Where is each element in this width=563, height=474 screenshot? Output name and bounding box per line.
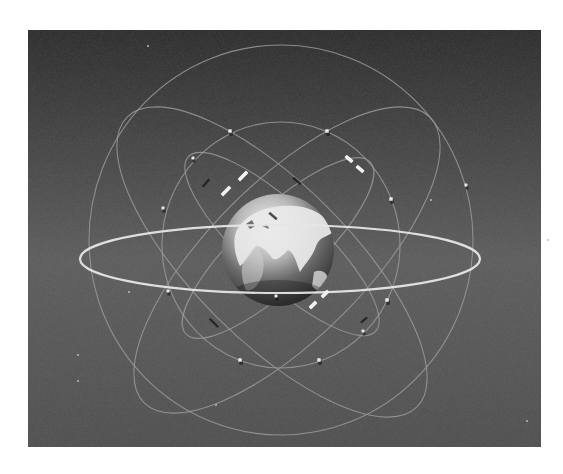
constellation-figure — [0, 0, 563, 474]
satellite-icon — [465, 184, 468, 187]
satellite-icon — [275, 295, 278, 298]
satellite-icon — [238, 358, 242, 362]
satellite-icon — [192, 157, 195, 160]
satellite-icon — [317, 358, 321, 362]
satellite-icon — [228, 129, 232, 133]
constellation-diagram — [0, 0, 563, 474]
satellite-icon — [385, 298, 389, 302]
satellite-icon — [362, 330, 365, 333]
star-dot — [128, 291, 130, 293]
star-dot — [430, 199, 432, 201]
satellite-icon — [167, 290, 170, 293]
star-dot — [547, 239, 549, 241]
star-dot — [77, 380, 79, 382]
star-dot — [526, 420, 528, 422]
satellite-icon — [389, 197, 393, 201]
star-dot — [147, 45, 149, 47]
satellite-icon — [325, 129, 329, 133]
star-dot — [77, 354, 79, 356]
satellite-icon — [162, 207, 165, 210]
